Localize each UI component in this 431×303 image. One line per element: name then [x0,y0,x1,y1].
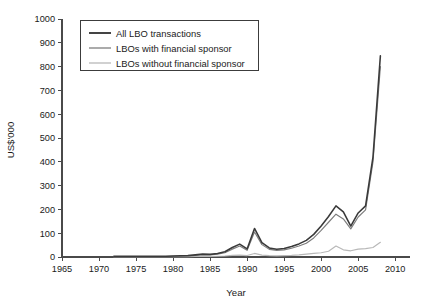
series-line-1 [114,67,381,257]
series-line-0 [114,56,381,256]
x-tick-label: 1965 [52,264,72,274]
y-tick-label: 100 [40,229,55,239]
y-tick-label: 900 [40,38,55,48]
y-tick-label: 500 [40,133,55,143]
y-tick-label: 1000 [35,14,55,24]
x-tick-label: 2010 [385,264,405,274]
x-tick-label: 1990 [237,264,257,274]
y-tick-label: 200 [40,205,55,215]
y-tick-label: 600 [40,110,55,120]
x-tick-label: 2005 [348,264,368,274]
y-axis-title: US$'000 [5,122,16,159]
legend-label-2: LBOs without financial sponsor [116,58,245,69]
x-tick-label: 1970 [89,264,109,274]
y-tick-label: 800 [40,62,55,72]
y-tick-label: 300 [40,181,55,191]
x-axis-ticks: 1965197019751980198519901995200020052010 [52,257,406,274]
x-tick-label: 1985 [200,264,220,274]
y-tick-label: 400 [40,157,55,167]
y-axis-ticks: 01002003004005006007008009001000 [35,14,62,262]
x-tick-label: 1975 [126,264,146,274]
y-tick-label: 0 [50,252,55,262]
chart-legend: All LBO transactionsLBOs with financial … [80,20,258,70]
lbo-transactions-line-chart: 01002003004005006007008009001000 1965197… [0,0,431,303]
data-series-group [114,56,381,257]
legend-label-1: LBOs with financial sponsor [116,43,232,54]
x-tick-label: 2000 [311,264,331,274]
y-tick-label: 700 [40,86,55,96]
chart-canvas: 01002003004005006007008009001000 1965197… [0,0,431,303]
x-tick-label: 1995 [274,264,294,274]
x-axis-title: Year [226,287,246,298]
legend-label-0: All LBO transactions [116,28,201,39]
x-tick-label: 1980 [163,264,183,274]
